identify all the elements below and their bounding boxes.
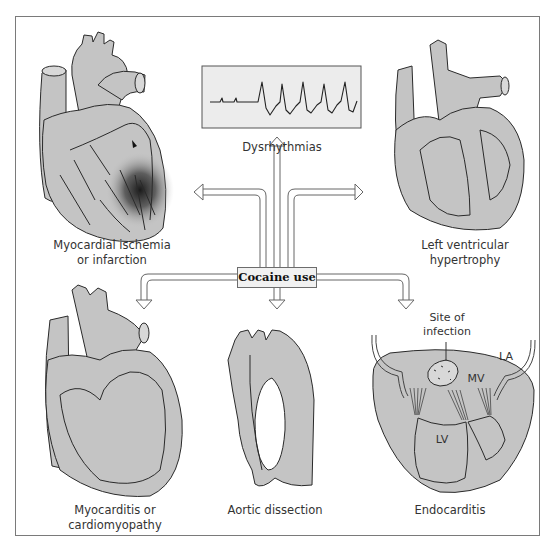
annotation-site-of-infection: Site of infection — [412, 311, 482, 339]
myocarditis-heart-illustration — [45, 285, 182, 496]
ecg-strip-illustration — [202, 66, 361, 128]
panel-label-aortic: Aortic dissection — [215, 503, 335, 518]
lvh-heart-illustration — [395, 40, 524, 230]
annotation-la: LA — [494, 349, 518, 364]
panel-label-dysrhythmias: Dysrhythmias — [222, 140, 342, 155]
panel-label-myocarditis: Myocarditis or cardiomyopathy — [50, 503, 180, 533]
panel-label-lvh: Left ventricular hypertrophy — [400, 238, 530, 268]
annotation-mv: MV — [462, 371, 490, 386]
panel-label-ischemia: Myocardial ischemia or infarction — [42, 238, 182, 268]
cocaine-use-box: Cocaine use — [237, 267, 317, 288]
panel-label-endocarditis: Endocarditis — [395, 503, 505, 518]
annotation-lv: LV — [430, 432, 454, 447]
ischemia-heart-illustration — [40, 32, 174, 242]
aortic-dissection-illustration — [228, 330, 314, 486]
